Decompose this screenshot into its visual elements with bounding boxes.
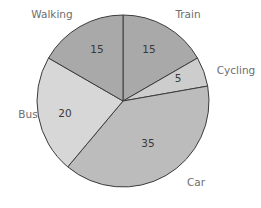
pie-slices [37,15,209,187]
value-label-bus: 20 [58,107,71,119]
category-label-walking: Walking [31,8,72,20]
category-label-cycling: Cycling [217,64,255,76]
category-label-car: Car [187,176,206,188]
category-label-bus: Bus [18,108,37,120]
value-label-car: 35 [141,137,154,149]
value-label-cycling: 5 [175,72,182,84]
pie-chart: 155352015 TrainCyclingCarBusWalking [0,0,261,208]
category-label-train: Train [174,8,200,20]
value-label-train: 15 [142,43,155,55]
value-label-walking: 15 [90,43,103,55]
